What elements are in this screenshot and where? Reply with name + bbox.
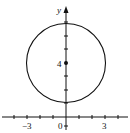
x-tick-label-neg3: −3	[22, 121, 32, 131]
y-axis-arrow-icon	[64, 6, 69, 13]
x-tick-label-0: 0	[58, 121, 63, 131]
center-point	[64, 61, 68, 65]
circle-graph: y 4 −3 0 3	[0, 0, 130, 133]
y-axis-label: y	[56, 5, 61, 15]
y-tick-label-4: 4	[57, 59, 62, 69]
x-tick-label-3: 3	[102, 121, 107, 131]
